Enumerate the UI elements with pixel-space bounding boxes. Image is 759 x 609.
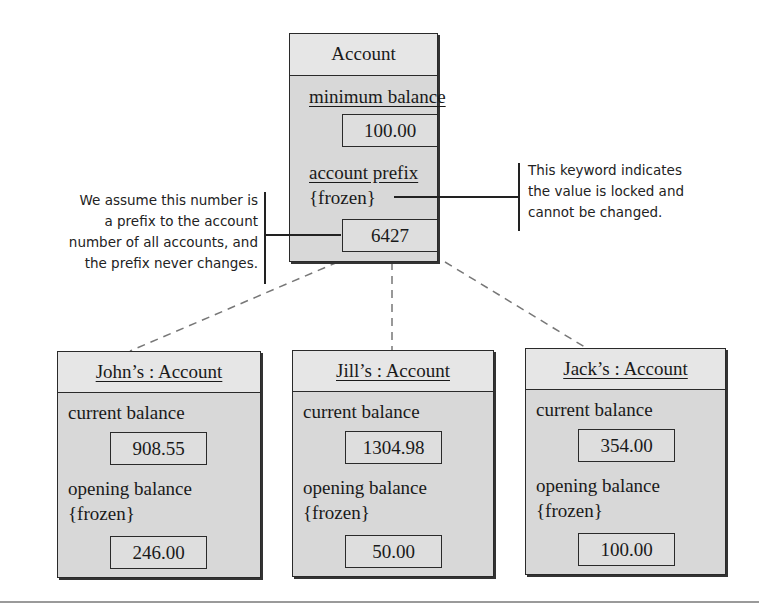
account-class-title: Account	[290, 34, 437, 76]
right-note-bracket	[518, 163, 520, 231]
opening-balance-constraint: {frozen}	[68, 503, 135, 525]
connector-jack	[445, 262, 588, 349]
right-note-line: cannot be changed.	[528, 202, 684, 223]
bottom-divider	[0, 601, 759, 603]
frozen-leader-line	[394, 196, 519, 198]
left-annotation: We assume this number is a prefix to the…	[40, 190, 258, 274]
left-note-line: a prefix to the account	[40, 211, 258, 232]
left-note-line: We assume this number is	[40, 190, 258, 211]
prefix-leader-line	[265, 234, 341, 236]
account-class-box: Account minimum balance 100.00 account p…	[289, 33, 438, 262]
opening-balance-value: 50.00	[345, 535, 442, 568]
current-balance-value: 1304.98	[345, 431, 442, 464]
instance-header: Jack’s : Account	[526, 349, 725, 390]
instance-title: John’s : Account	[96, 361, 223, 382]
attr-account-prefix-value: 6427	[342, 219, 438, 252]
connector-john	[130, 262, 338, 351]
current-balance-label: current balance	[303, 401, 420, 423]
attr-minimum-balance-value: 100.00	[342, 114, 438, 147]
opening-balance-constraint: {frozen}	[536, 500, 603, 522]
attr-account-prefix-constraint: {frozen}	[309, 187, 376, 209]
left-note-line: the prefix never changes.	[40, 253, 258, 274]
right-note-line: the value is locked and	[528, 181, 684, 202]
instance-header: Jill’s : Account	[293, 351, 493, 392]
opening-balance-value: 246.00	[110, 536, 207, 569]
current-balance-value: 908.55	[110, 432, 207, 465]
instance-box-jack: Jack’s : Account current balance 354.00 …	[525, 348, 726, 575]
current-balance-value: 354.00	[578, 429, 675, 462]
opening-balance-constraint: {frozen}	[303, 502, 370, 524]
current-balance-label: current balance	[68, 402, 185, 424]
opening-balance-label: opening balance	[303, 477, 427, 499]
instance-title: Jack’s : Account	[563, 358, 688, 379]
left-note-bracket	[264, 192, 266, 284]
opening-balance-value: 100.00	[578, 533, 675, 566]
opening-balance-label: opening balance	[68, 478, 192, 500]
current-balance-label: current balance	[536, 399, 653, 421]
instance-box-john: John’s : Account current balance 908.55 …	[57, 351, 261, 578]
left-note-line: number of all accounts, and	[40, 232, 258, 253]
instance-header: John’s : Account	[58, 352, 260, 393]
right-note-line: This keyword indicates	[528, 160, 684, 181]
opening-balance-label: opening balance	[536, 475, 660, 497]
attr-minimum-balance-label: minimum balance	[309, 86, 446, 108]
instance-title: Jill’s : Account	[336, 360, 450, 381]
right-annotation: This keyword indicates the value is lock…	[528, 160, 684, 223]
instance-box-jill: Jill’s : Account current balance 1304.98…	[292, 350, 494, 577]
attr-account-prefix-label: account prefix	[309, 162, 418, 184]
